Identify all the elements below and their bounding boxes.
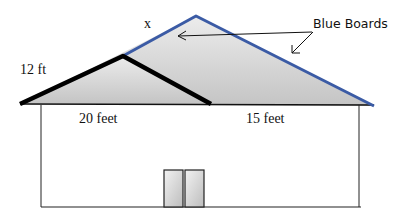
label-15-feet: 15 feet	[246, 111, 284, 127]
label-20-feet: 20 feet	[79, 111, 117, 127]
label-blue-boards: Blue Boards	[313, 16, 388, 31]
label-x: x	[144, 16, 151, 32]
door-right	[185, 170, 204, 207]
blue-boards-arrow-down	[292, 32, 313, 53]
label-12ft: 12 ft	[20, 62, 46, 78]
house-diagram	[0, 0, 407, 222]
roof-base-line	[20, 104, 374, 105]
door-left	[164, 170, 183, 207]
